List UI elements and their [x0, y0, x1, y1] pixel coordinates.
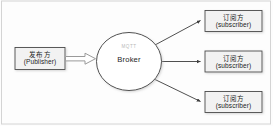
subscriber-node-3[interactable] [205, 92, 262, 113]
subscriber-node-1[interactable] [205, 11, 262, 32]
connector-publisher-to-broker [66, 53, 96, 64]
connector-broker-to-subscriber-1 [155, 21, 201, 46]
subscriber-node-2[interactable] [205, 51, 262, 72]
diagram-canvas: 发布方 (Publisher) MQTT Broker 订阅方 (subscri… [0, 0, 273, 126]
publisher-node[interactable] [15, 48, 65, 70]
broker-name-label: Broker [104, 55, 154, 64]
connector-broker-to-subscriber-3 [154, 79, 201, 102]
broker-protocol-label: MQTT [109, 44, 149, 49]
